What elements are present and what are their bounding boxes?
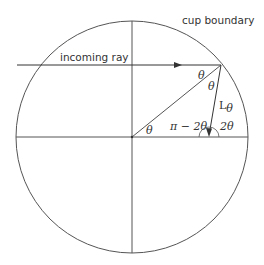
incoming-ray-label: incoming ray	[60, 51, 129, 63]
theta-label-lower: θ	[208, 80, 215, 93]
incoming-ray-arrow-icon	[174, 62, 182, 68]
two-theta-label: 2θ	[219, 120, 234, 133]
theta-label-center: θ	[146, 124, 153, 137]
pi-minus-2theta-label: π − 2θ	[169, 120, 207, 133]
cup-boundary-label: cup boundary	[182, 14, 254, 26]
l-theta-label: Lθ	[219, 99, 233, 115]
l-theta-subscript: θ	[226, 102, 233, 115]
theta-label-upper: θ	[198, 69, 205, 82]
center-point	[131, 136, 133, 138]
cup-diagram: cup boundary incoming ray θ θ θ Lθ π − 2…	[0, 0, 264, 265]
